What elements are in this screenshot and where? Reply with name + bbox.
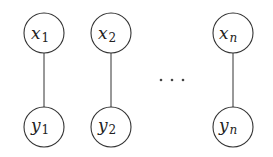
node-y1: y1 [24,107,64,147]
node-xn: xn [213,13,253,53]
graphical-model-diagram: x1 x2 xn y1 y2 yn [0,0,273,157]
node-y2: y2 [91,107,131,147]
node-x2: x2 [91,13,131,53]
ellipsis-icon [160,79,185,82]
node-x1: x1 [24,13,64,53]
node-yn: yn [213,107,253,147]
